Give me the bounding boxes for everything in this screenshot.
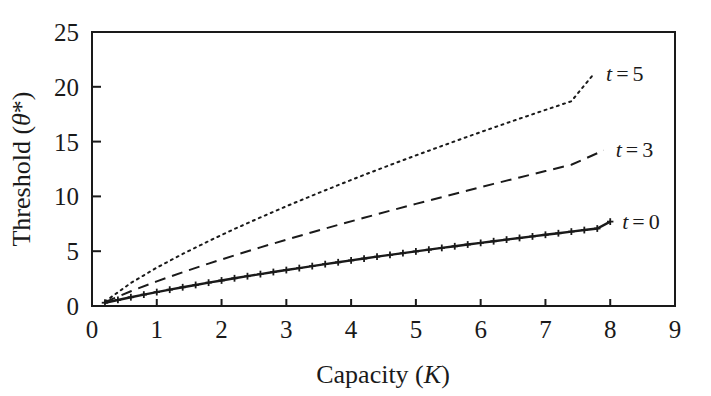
x-tick-label: 2 — [215, 316, 228, 343]
x-tick-label: 6 — [474, 316, 487, 343]
svg-text:t=5: t=5 — [606, 61, 644, 86]
x-tick-label: 3 — [280, 316, 293, 343]
svg-text:Capacity (K): Capacity (K) — [316, 360, 450, 389]
svg-text:t=0: t=0 — [622, 209, 660, 234]
svg-text:t=3: t=3 — [616, 137, 654, 162]
x-tick-label: 9 — [669, 316, 682, 343]
series-label-0: t=0 — [622, 209, 660, 234]
x-tick-label: 5 — [410, 316, 423, 343]
x-tick-label: 1 — [151, 316, 164, 343]
chart-figure: 0123456789 0510152025 t=0t=3t=5 Capacity… — [0, 0, 711, 396]
series-label-3: t=3 — [616, 137, 654, 162]
y-tick-label: 5 — [67, 238, 80, 265]
x-axis-title: Capacity (K) — [316, 360, 450, 389]
y-tick-label: 20 — [54, 74, 79, 101]
x-tick-label: 7 — [539, 316, 552, 343]
x-tick-label: 8 — [604, 316, 617, 343]
x-tick-label: 0 — [86, 316, 99, 343]
y-axis-title: Threshold (θ*) — [7, 91, 36, 246]
y-tick-label: 10 — [54, 183, 79, 210]
y-tick-label: 25 — [54, 19, 79, 46]
series-label-5: t=5 — [606, 61, 644, 86]
y-tick-label: 0 — [67, 293, 80, 320]
y-tick-label: 15 — [54, 129, 79, 156]
line-chart: 0123456789 0510152025 t=0t=3t=5 Capacity… — [0, 0, 711, 396]
x-tick-label: 4 — [345, 316, 358, 343]
svg-text:Threshold (θ*): Threshold (θ*) — [7, 91, 36, 246]
